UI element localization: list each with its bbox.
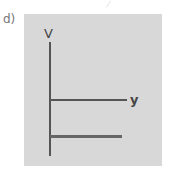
vertical-axis-label: V	[44, 26, 53, 41]
figure-label: d)	[3, 12, 15, 26]
horizontal-axis	[49, 99, 127, 101]
horizontal-axis-label: y	[130, 92, 138, 107]
constant-line	[50, 135, 122, 138]
faint-mark	[106, 0, 111, 7]
